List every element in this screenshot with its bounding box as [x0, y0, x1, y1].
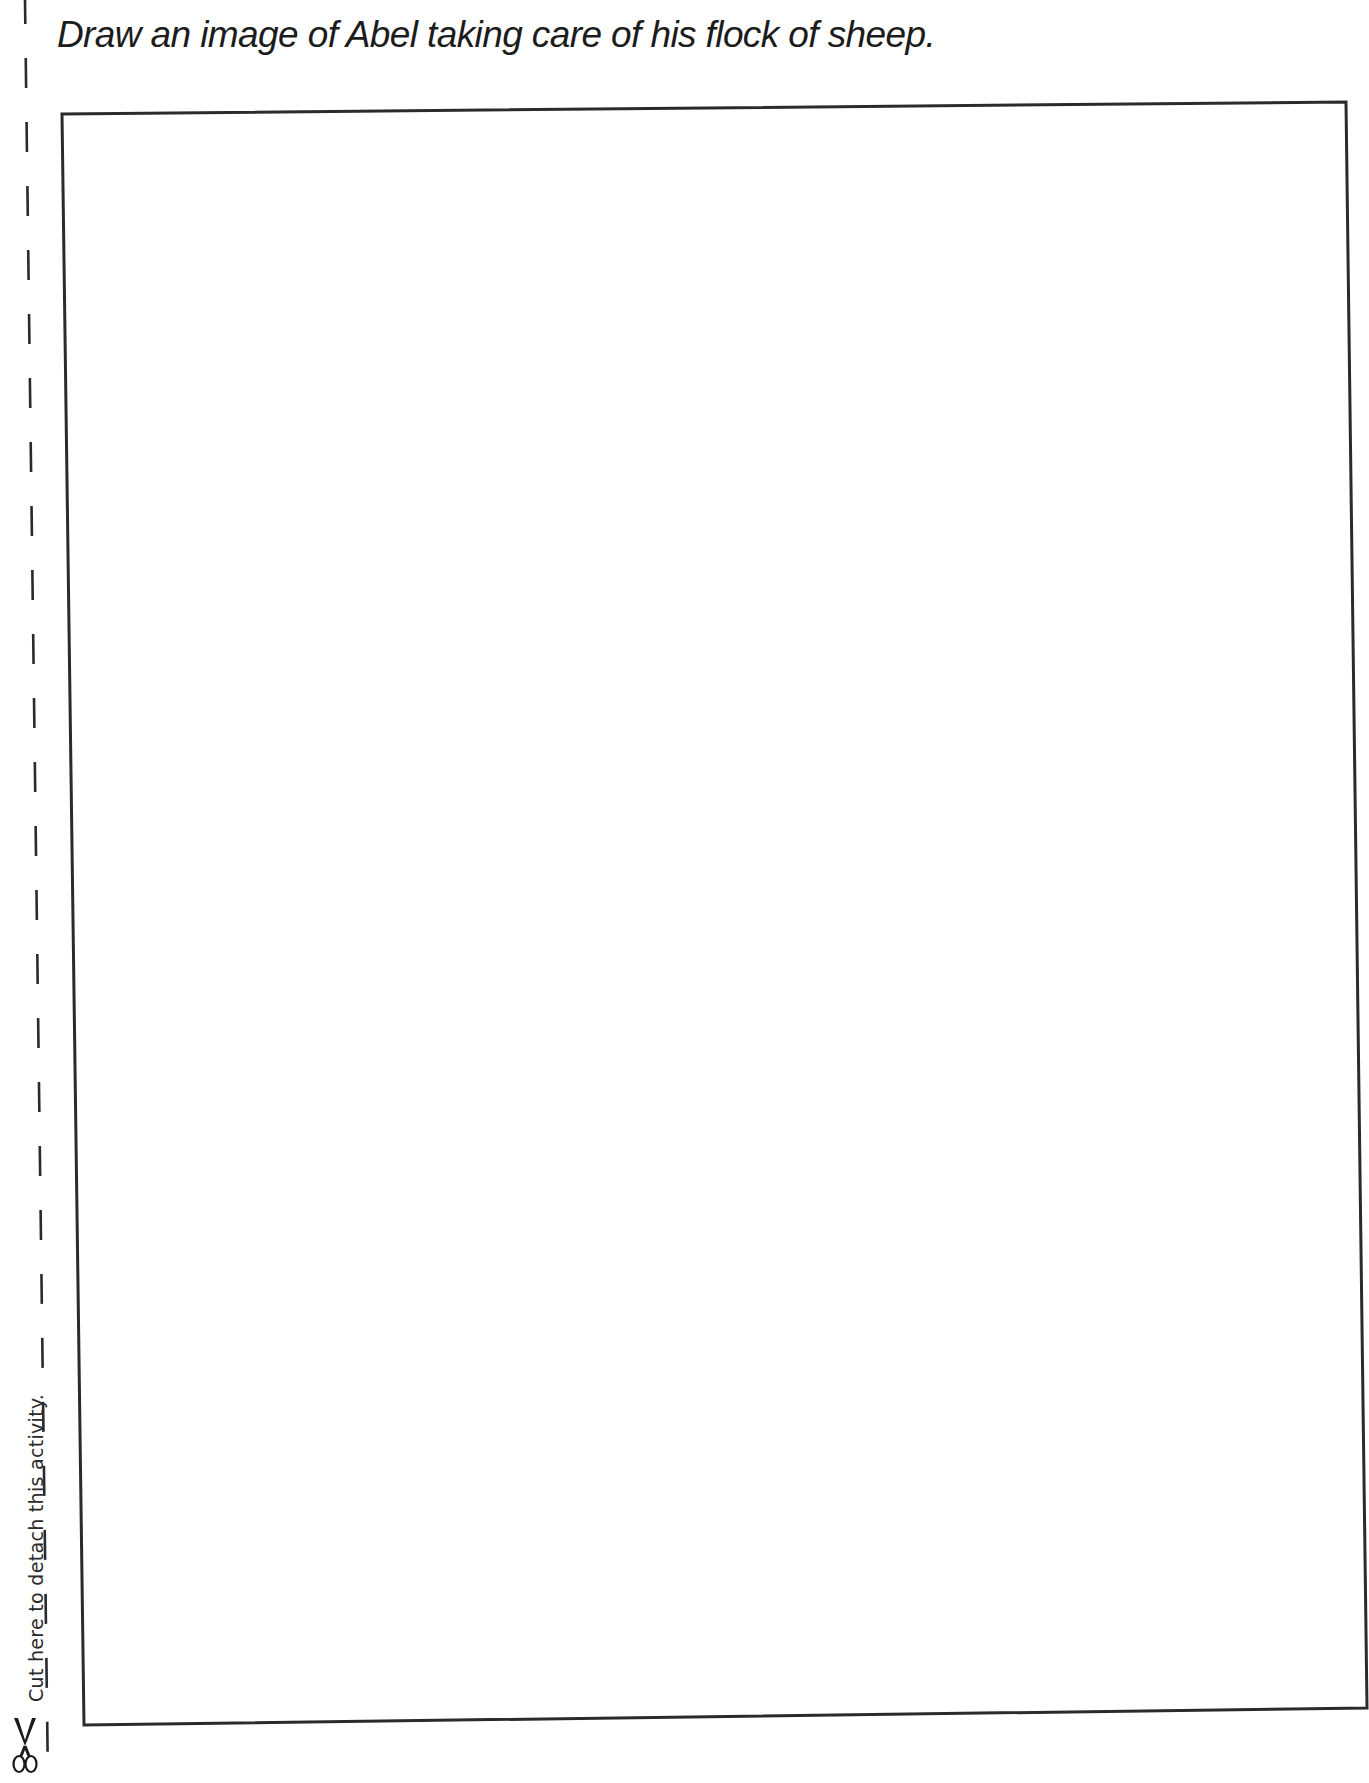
scissors-icon — [10, 1716, 40, 1774]
drawing-area[interactable] — [70, 115, 1350, 1710]
cut-line-label: Cut here to detach this activity. — [25, 1394, 47, 1702]
